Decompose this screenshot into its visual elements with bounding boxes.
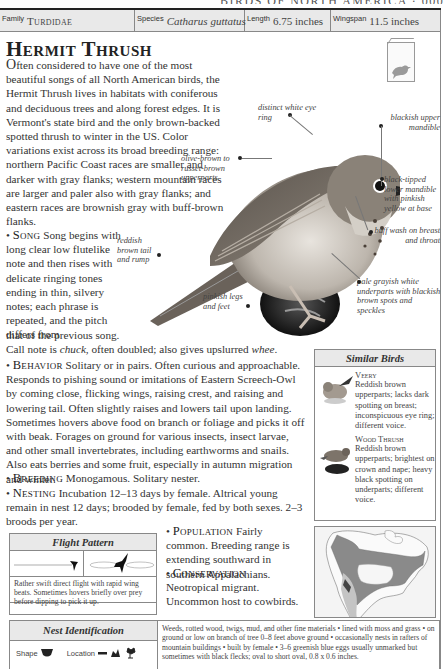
- callout-lower-mandible: black-tipped lower mandible with pinkish…: [384, 175, 440, 213]
- flight-pattern-frame: [9, 603, 157, 615]
- veery-description: Reddish brown upperparts; lacks dark spo…: [355, 380, 435, 431]
- call-note-whee: whee: [251, 343, 274, 355]
- callout-dot: [357, 280, 361, 284]
- flight-diagram-hover: [84, 551, 157, 576]
- bullet: •: [6, 487, 13, 499]
- nest-identification-left: Nest Identification Shape Location: [10, 621, 158, 669]
- conservation-heading: Conservation: [173, 566, 246, 580]
- similar-birds-panel: Similar Birds Veery Reddish brown upperp…: [314, 349, 436, 521]
- running-head: BIRDS OF NORTH AMERICA · 000: [220, 0, 444, 4]
- tree-icon: [127, 648, 135, 658]
- callout-legs: pinkish legs and feet: [203, 292, 248, 311]
- bullet: •: [6, 472, 13, 484]
- shrub-icon: [111, 649, 120, 657]
- bullet: •: [166, 525, 173, 537]
- wingspan-value: 11.5 inches: [369, 15, 419, 27]
- veery-name: Veery: [355, 370, 435, 380]
- behavior-text: Solitary or in pairs. Often curious and …: [6, 359, 304, 485]
- section-song: • Song Song begins with long clear low f…: [6, 228, 124, 342]
- section-breeding: • Breeding Monogamous. Solitary nester.: [6, 471, 306, 485]
- nest-shape-label: Shape: [16, 649, 38, 658]
- cup-nest-icon: [41, 649, 53, 657]
- right-frame-line: [440, 10, 441, 669]
- book-bird-icon: [387, 42, 415, 82]
- length-value: 6.75 inches: [273, 15, 323, 27]
- callout-leader: [242, 158, 272, 159]
- species-value: Catharus guttatus: [167, 15, 246, 27]
- wingspan-label: Wingspan: [333, 14, 366, 23]
- veery-image: [319, 374, 355, 404]
- callout-buff-wash: buff wash on breast and throat: [368, 226, 440, 245]
- song-heading: Song: [13, 228, 41, 242]
- section-song-tail: that of the previous song. Call note is …: [6, 328, 306, 356]
- family-label: Family: [2, 14, 24, 23]
- wood-thrush-image: [318, 442, 354, 476]
- intro-drop-cap: O: [6, 57, 16, 72]
- nest-identification-panel: Nest Identification Shape Location Weeds…: [9, 620, 440, 669]
- similar-birds-heading: Similar Birds: [315, 350, 435, 367]
- section-behavior: • Behavior Solitary or in pairs. Often c…: [6, 358, 306, 486]
- length-label: Length: [247, 14, 270, 23]
- similar-bird-wood-thrush: Wood Thrush Reddish brown upperparts; br…: [355, 434, 435, 505]
- species-cell: Species Catharus guttatus: [135, 10, 245, 31]
- info-bar: Family Turdidae Species Catharus guttatu…: [0, 10, 441, 32]
- section-nesting: • Nesting Incubation 12–13 days by femal…: [6, 486, 306, 529]
- family-value: Turdidae: [27, 15, 72, 27]
- range-map: [314, 526, 436, 618]
- breeding-text: Monogamous. Solitary nester.: [66, 472, 200, 484]
- bullet: •: [6, 359, 13, 371]
- callout-dot: [369, 230, 373, 234]
- wood-thrush-description: Reddish brown upperparts; brightest on c…: [355, 444, 435, 505]
- callout-dot: [380, 177, 384, 181]
- bullet: •: [6, 229, 13, 241]
- nest-shape-location-row: Shape Location: [10, 641, 157, 665]
- callout-upper-mandible: blackish upper mandible: [378, 113, 440, 132]
- ground-icon: [98, 652, 107, 655]
- call-note-chuck: chuck: [60, 343, 86, 355]
- breeding-heading: Breeding: [13, 471, 63, 485]
- callout-underparts: pale grayish white underparts with black…: [357, 277, 441, 315]
- population-heading: Population: [173, 524, 233, 538]
- song-tail-line2: Call note is chuck, often doubled; also …: [6, 342, 306, 356]
- callout-dot: [246, 304, 250, 308]
- family-cell: Family Turdidae: [0, 10, 135, 31]
- nest-description: Weeds, rotted wood, twigs, mud, and othe…: [158, 621, 439, 669]
- conservation-text: Neotropical migrant. Uncommon host to co…: [166, 581, 298, 607]
- section-conservation: • Conservation Neotropical migrant. Unco…: [166, 566, 301, 609]
- wingspan-cell: Wingspan 11.5 inches: [331, 10, 441, 31]
- bullet: •: [166, 567, 173, 579]
- species-label: Species: [137, 14, 164, 23]
- song-text: Song begins with long clear low flutelik…: [6, 229, 121, 340]
- flight-pattern-heading: Flight Pattern: [10, 534, 156, 551]
- nest-location-icons: [98, 647, 138, 659]
- nest-location-label: Location: [67, 649, 95, 658]
- length-cell: Length 6.75 inches: [245, 10, 331, 31]
- flight-diagram-direct: [10, 551, 84, 576]
- wood-thrush-name: Wood Thrush: [355, 434, 435, 444]
- flight-diagrams: [10, 551, 156, 577]
- similar-bird-veery: Veery Reddish brown upperparts; lacks da…: [355, 370, 435, 431]
- callout-upperparts: olive-brown to russet-brown upperparts: [181, 154, 243, 183]
- callout-dot: [157, 253, 161, 257]
- nesting-heading: Nesting: [13, 486, 56, 500]
- behavior-heading: Behavior: [13, 358, 63, 372]
- flight-pattern-panel: Flight Pattern Rather swift direct fligh…: [9, 533, 157, 603]
- song-tail-line1: that of the previous song.: [6, 328, 306, 342]
- nest-identification-heading: Nest Identification: [10, 621, 157, 641]
